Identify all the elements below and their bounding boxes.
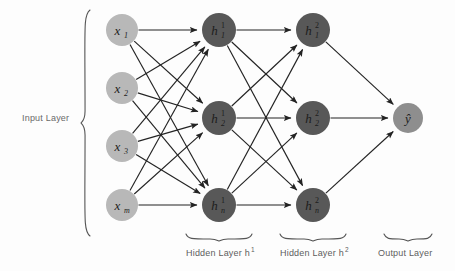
node-hidden1-hn[interactable]: h1n: [202, 188, 236, 222]
connection-edge: [227, 45, 302, 185]
connection-edge: [130, 49, 208, 190]
node-base-label: h: [305, 198, 312, 213]
node-subscript-label: n: [221, 206, 225, 215]
node-subscript-label: 2: [221, 119, 225, 128]
node-circle[interactable]: [202, 13, 236, 47]
connection-edge: [136, 41, 200, 79]
node-circle[interactable]: [296, 13, 330, 47]
node-base-label: x: [114, 139, 121, 154]
node-base-label: x: [114, 198, 121, 213]
hidden1-caption-group: Hidden Layer h 1: [186, 246, 255, 258]
connection-edge: [232, 45, 297, 106]
node-superscript-label: 2: [315, 109, 319, 118]
connection-edge: [138, 124, 198, 141]
node-circle[interactable]: [296, 101, 330, 135]
node-superscript-label: 1: [221, 196, 225, 205]
node-base-label: h: [211, 111, 218, 126]
node-hidden1-h1[interactable]: h11: [202, 13, 236, 47]
node-base-label: h: [211, 198, 218, 213]
node-output-ŷ[interactable]: ŷ: [393, 103, 423, 133]
node-subscript-label: n: [315, 206, 319, 215]
node-subscript-label: 1: [124, 31, 128, 40]
node-base-label: x: [114, 23, 121, 38]
node-subscript-label: 2: [124, 89, 128, 98]
node-hidden1-h2[interactable]: h12: [202, 101, 236, 135]
input-brace: [81, 10, 90, 236]
node-circle[interactable]: [106, 72, 138, 104]
hidden-layer-2-caption: Hidden Layer h: [280, 248, 344, 258]
node-superscript-label: 1: [221, 21, 225, 30]
node-base-label: h: [305, 23, 312, 38]
node-subscript-label: 1: [315, 31, 319, 40]
edges-hidden2-to-output: [326, 42, 393, 193]
node-subscript-label: 3: [123, 147, 128, 156]
hidden1-brace: [186, 234, 252, 241]
neural-network-diagram: x1x2x3xmh11h12h1nh21h22h2nŷ Input Layer …: [0, 0, 455, 271]
node-input-x3[interactable]: x3: [106, 130, 138, 162]
node-base-label: ŷ: [403, 111, 411, 126]
edges-hidden1-to-hidden2: [227, 30, 302, 205]
connection-edge: [227, 49, 302, 189]
connection-edge: [326, 42, 393, 105]
node-superscript-label: 2: [315, 21, 319, 30]
node-circle[interactable]: [106, 14, 138, 46]
node-hidden2-h2[interactable]: h22: [296, 101, 330, 135]
node-input-xm[interactable]: xm: [106, 189, 138, 221]
network-svg: x1x2x3xmh11h12h1nh21h22h2nŷ Input Layer …: [0, 0, 455, 271]
input-layer-caption: Input Layer: [22, 113, 69, 123]
output-layer-caption: Output Layer: [378, 248, 432, 258]
hidden-layer-2-caption-superscript: 2: [345, 246, 349, 253]
node-superscript-label: 2: [315, 196, 319, 205]
node-circle[interactable]: [106, 189, 138, 221]
node-base-label: h: [305, 111, 312, 126]
connection-edge: [138, 93, 198, 112]
node-base-label: h: [211, 23, 218, 38]
connection-edge: [326, 132, 393, 194]
node-circle[interactable]: [106, 130, 138, 162]
node-hidden2-h1[interactable]: h21: [296, 13, 330, 47]
connection-edge: [134, 41, 202, 103]
hidden2-caption-group: Hidden Layer h 2: [280, 246, 349, 258]
hidden2-brace: [280, 234, 346, 241]
connection-edge: [130, 44, 208, 185]
hidden-layer-1-caption-superscript: 1: [251, 246, 255, 253]
node-subscript-label: m: [124, 206, 130, 215]
node-circle[interactable]: [296, 188, 330, 222]
node-hidden2-hn[interactable]: h2n: [296, 188, 330, 222]
node-circle[interactable]: [202, 188, 236, 222]
node-input-x2[interactable]: x2: [106, 72, 138, 104]
node-subscript-label: 1: [221, 31, 225, 40]
connection-edge: [136, 155, 200, 194]
node-circle[interactable]: [202, 101, 236, 135]
edges-input-to-hidden1: [130, 30, 208, 205]
node-input-x1[interactable]: x1: [106, 14, 138, 46]
node-base-label: x: [114, 81, 121, 96]
hidden-layer-1-caption: Hidden Layer h: [186, 248, 250, 258]
connection-edge: [232, 130, 297, 190]
output-brace: [384, 234, 432, 241]
node-subscript-label: 2: [315, 119, 319, 128]
node-superscript-label: 1: [221, 109, 225, 118]
